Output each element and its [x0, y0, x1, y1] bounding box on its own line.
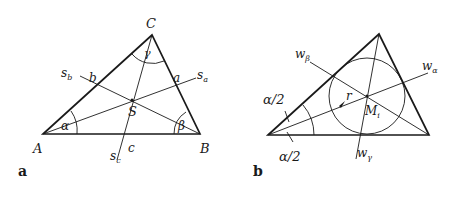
half-angle-top-label: α/2	[263, 92, 284, 107]
bisector-w-gamma-label: wγ	[357, 146, 372, 162]
panel-b-label: b	[253, 163, 263, 179]
angle-beta-label: β	[177, 119, 185, 133]
vertex-a-label: A	[32, 141, 42, 156]
radius-label: r	[346, 89, 353, 103]
incenter-point	[366, 95, 369, 98]
half-angle-arc	[303, 105, 314, 135]
median-sa-label: sa	[197, 68, 208, 84]
angle-gamma-label: γ	[144, 47, 151, 60]
bisector-w-alpha-label: wα	[422, 59, 438, 75]
vertex-b-label: B	[199, 141, 210, 156]
centroid-label: S	[128, 104, 137, 119]
side-a-label: a	[173, 71, 180, 85]
side-c-label: c	[128, 141, 135, 155]
bisector-w-beta-label: wβ	[295, 47, 310, 63]
half-angle-tick-bottom	[287, 132, 293, 142]
angle-alpha-label: α	[61, 119, 69, 133]
centroid-point	[131, 99, 134, 102]
vertex-c-label: C	[146, 16, 156, 31]
side-b-label: b	[89, 71, 97, 85]
panel-a-label: a	[18, 163, 27, 179]
median-sb-label: sb	[61, 66, 72, 82]
panel-a-medians: C A B b a c α β γ S sb sa sc a	[18, 16, 210, 179]
incenter-label: Mi	[364, 104, 380, 120]
half-angle-bottom-label: α/2	[279, 149, 300, 164]
panel-b-bisectors: wβ wα wγ α/2 α/2 r Mi b	[253, 34, 438, 179]
triangle-figure: C A B b a c α β γ S sb sa sc a wβ wα wγ	[0, 0, 452, 207]
